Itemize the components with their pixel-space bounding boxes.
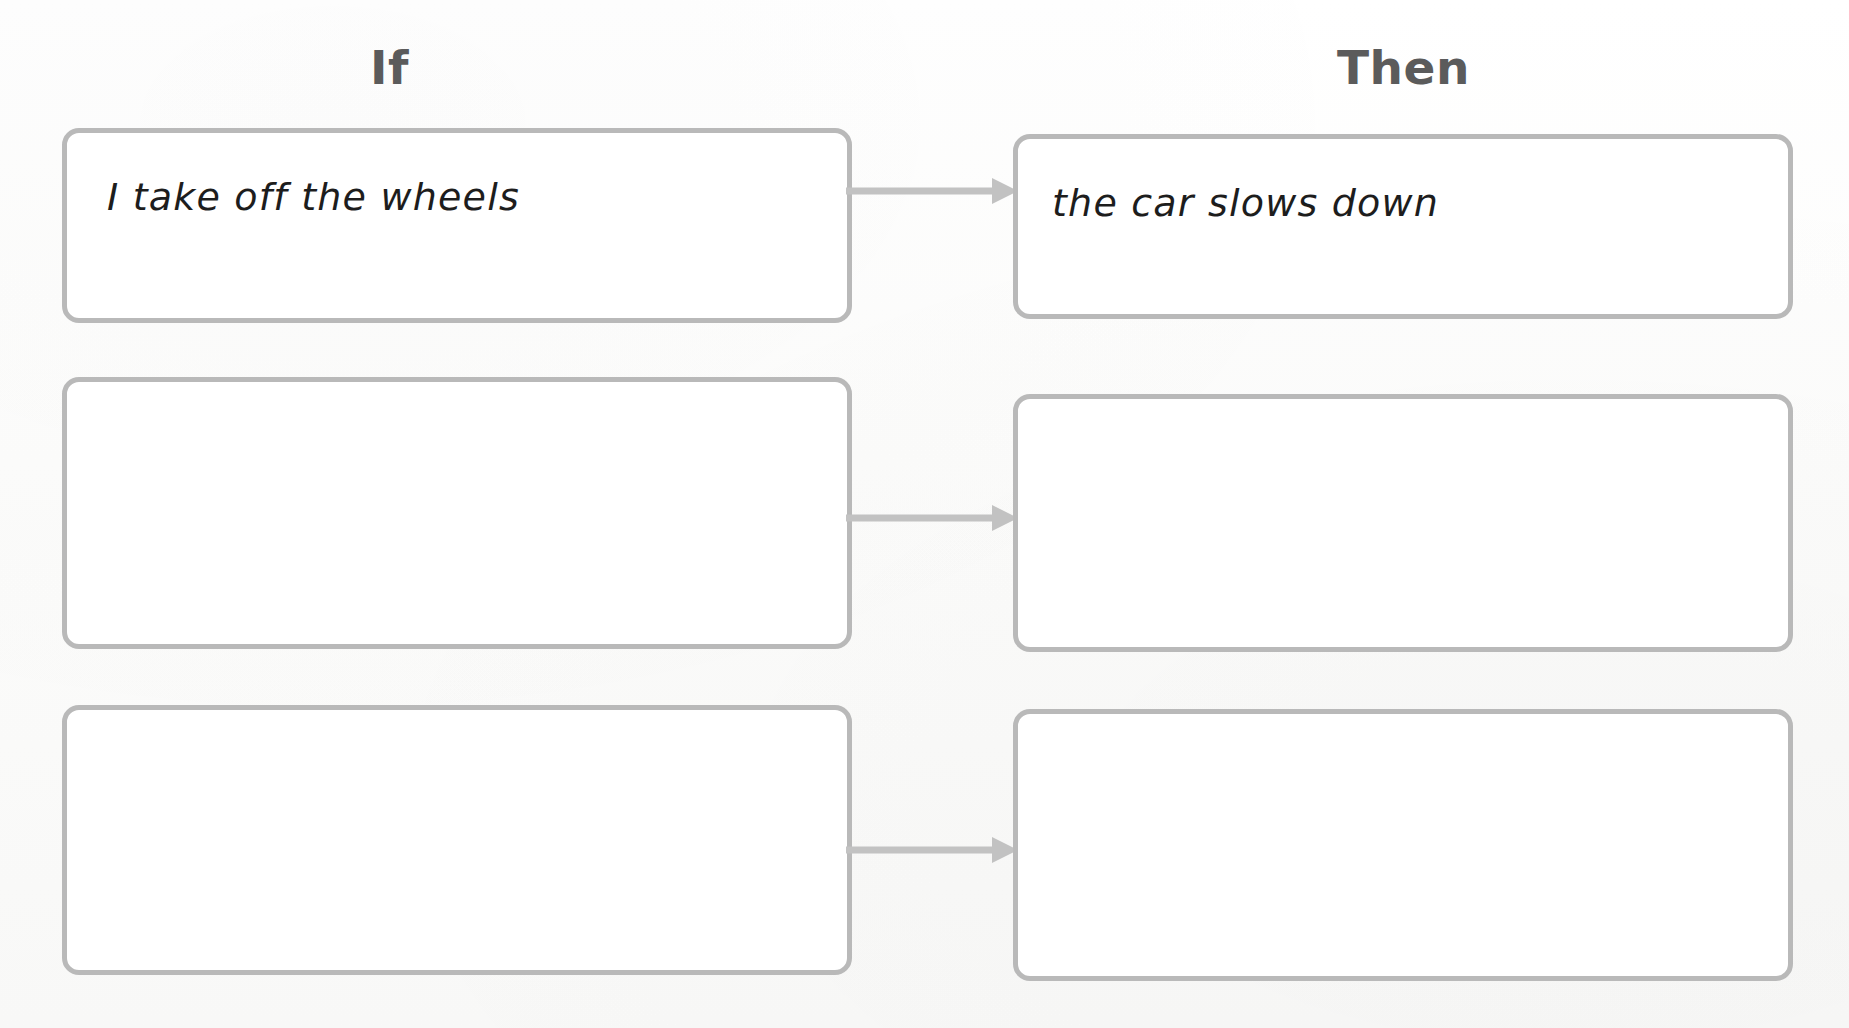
arrow-right-icon-row-1 (846, 176, 1018, 206)
column-heading-then: Then (1337, 44, 1470, 91)
arrow-right-icon-row-2 (846, 503, 1018, 533)
if-then-worksheet: If Then I take off the wheels the car sl… (0, 0, 1849, 1028)
then-box-row-1[interactable] (1013, 134, 1793, 319)
if-box-row-1[interactable] (62, 128, 852, 323)
if-box-row-2[interactable] (62, 377, 852, 649)
column-heading-if: If (370, 44, 409, 91)
if-box-row-1-text: I take off the wheels (107, 178, 520, 216)
arrow-right-icon-row-3 (846, 835, 1018, 865)
then-box-row-1-text: the car slows down (1052, 184, 1439, 222)
then-box-row-3[interactable] (1013, 709, 1793, 981)
then-box-row-2[interactable] (1013, 394, 1793, 652)
if-box-row-3[interactable] (62, 705, 852, 975)
